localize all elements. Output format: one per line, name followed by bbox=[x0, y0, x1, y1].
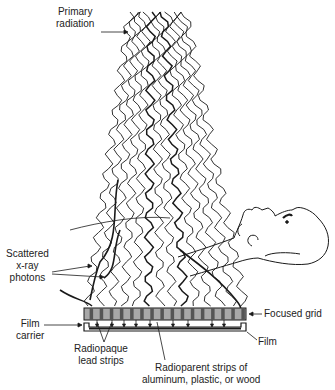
label-line: Radioparent strips of bbox=[142, 362, 260, 374]
label-film: Film bbox=[258, 336, 277, 348]
primary-beam-waves bbox=[84, 12, 247, 306]
label-line: radiation bbox=[56, 18, 94, 30]
focused-grid bbox=[84, 308, 246, 320]
label-line: Scattered bbox=[6, 248, 49, 260]
label-focused-grid: Focused grid bbox=[264, 308, 322, 320]
label-radiopaque-lead-strips: Radiopaque lead strips bbox=[74, 343, 128, 367]
label-line: x-ray bbox=[6, 260, 49, 272]
label-scattered-photons: Scattered x-ray photons bbox=[6, 248, 49, 284]
label-line: Film bbox=[16, 318, 44, 330]
label-film-carrier: Film carrier bbox=[16, 318, 44, 342]
transmitted-arrows bbox=[96, 320, 226, 327]
diagram-canvas bbox=[0, 0, 335, 390]
label-line: Primary bbox=[56, 6, 94, 18]
label-radioparent-strips: Radioparent strips of aluminum, plastic,… bbox=[142, 362, 260, 386]
label-line: lead strips bbox=[74, 355, 128, 367]
label-line: photons bbox=[6, 272, 49, 284]
label-line: carrier bbox=[16, 330, 44, 342]
label-line: Radiopaque bbox=[74, 343, 128, 355]
label-line: aluminum, plastic, or wood bbox=[142, 374, 260, 386]
label-primary-radiation: Primary radiation bbox=[56, 6, 94, 30]
film-carrier bbox=[84, 323, 246, 331]
